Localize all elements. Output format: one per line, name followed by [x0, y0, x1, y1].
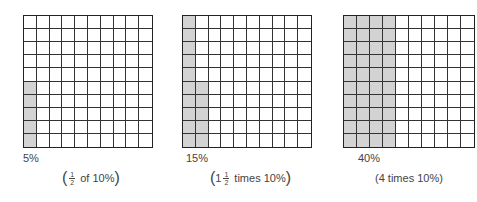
grid-cell: [260, 95, 273, 108]
grid-cell: [448, 134, 461, 147]
grid-cell: [383, 108, 396, 121]
grid-cell: [139, 108, 152, 121]
grid-cell: [260, 16, 273, 29]
grid-cell: [101, 55, 114, 68]
grid-cell: [435, 95, 448, 108]
grid-cell: [209, 42, 222, 55]
grid-cell: [344, 134, 357, 147]
grid-cell: [114, 55, 127, 68]
grid-cell: [183, 68, 196, 81]
grid-cell: [247, 16, 260, 29]
grid-cell: [422, 108, 435, 121]
grid-cell: [114, 68, 127, 81]
grid-cell: [435, 134, 448, 147]
grid-cell: [221, 55, 234, 68]
grid-cell: [448, 29, 461, 42]
grid-cell: [409, 68, 422, 81]
grid-cell: [383, 121, 396, 134]
grid-cell: [260, 134, 273, 147]
grid-cell: [114, 29, 127, 42]
grid-cell: [357, 42, 370, 55]
grid-cell: [37, 108, 50, 121]
grid-cell: [357, 134, 370, 147]
grid-cell: [448, 82, 461, 95]
grid-cell: [62, 42, 75, 55]
grid-cell: [383, 42, 396, 55]
grid-cell: [448, 108, 461, 121]
grid-cell: [88, 108, 101, 121]
grid-cell: [357, 95, 370, 108]
grid-cell: [344, 108, 357, 121]
grid-cell: [448, 121, 461, 134]
grid-cell: [273, 29, 286, 42]
grid-cell: [139, 42, 152, 55]
grid-cell: [461, 68, 474, 81]
grid-cell: [75, 121, 88, 134]
grid-cell: [50, 68, 63, 81]
grid-cell: [422, 82, 435, 95]
grid-cell: [247, 68, 260, 81]
grid-cell: [344, 82, 357, 95]
grid-cell: [75, 108, 88, 121]
grid-cell: [247, 121, 260, 134]
grid-cell: [298, 29, 311, 42]
grid-cell: [126, 29, 139, 42]
grid-cell: [409, 42, 422, 55]
grid-cell: [298, 121, 311, 134]
caption-text: 4 times 10%: [379, 172, 440, 184]
grid-cell: [221, 16, 234, 29]
grid-cell: [183, 95, 196, 108]
grid-cell: [126, 16, 139, 29]
grid-cell: [183, 134, 196, 147]
grid-cell: [298, 95, 311, 108]
grid-cell: [422, 42, 435, 55]
grid-cell: [409, 134, 422, 147]
grid-cell: [396, 16, 409, 29]
grid-cell: [234, 29, 247, 42]
grid-cell: [370, 29, 383, 42]
grid-cell: [273, 95, 286, 108]
grid-cell: [196, 55, 209, 68]
grid-cell: [24, 55, 37, 68]
open-paren: (: [62, 170, 67, 186]
grid-cell: [461, 42, 474, 55]
grid-cell: [75, 82, 88, 95]
grid-cell: [37, 42, 50, 55]
grid-cell: [126, 95, 139, 108]
grid-cell: [88, 82, 101, 95]
grid-cell: [370, 82, 383, 95]
grid-cell: [285, 68, 298, 81]
grid-cell: [196, 16, 209, 29]
grid-cell: [435, 42, 448, 55]
grid-cell: [396, 82, 409, 95]
grid-cell: [383, 82, 396, 95]
grid-cell: [101, 108, 114, 121]
grid-cell: [247, 108, 260, 121]
caption-half-of-10: ( 1 2 of 10% ): [62, 170, 120, 186]
grid-cell: [285, 29, 298, 42]
grid-cell: [50, 16, 63, 29]
grid-cell: [62, 95, 75, 108]
grid-cell: [196, 42, 209, 55]
fraction-one-half: 1 2: [223, 171, 229, 186]
grid-cell: [139, 121, 152, 134]
grid-cell: [273, 16, 286, 29]
grid-cell: [196, 108, 209, 121]
grid-cell: [221, 82, 234, 95]
grid-cell: [209, 95, 222, 108]
grid-cell: [285, 42, 298, 55]
grid-cell: [126, 55, 139, 68]
grid-cell: [344, 121, 357, 134]
grid-cell: [396, 29, 409, 42]
grid-cell: [234, 68, 247, 81]
grid-cell: [435, 68, 448, 81]
grid-cell: [285, 95, 298, 108]
caption-whole: 1: [215, 172, 221, 184]
grid-cell: [101, 134, 114, 147]
grid-cell: [357, 16, 370, 29]
grid-cell: [24, 134, 37, 147]
grid-cell: [50, 134, 63, 147]
grid-cell: [75, 95, 88, 108]
close-paren: ): [439, 172, 443, 184]
fraction-one-half: 1 2: [69, 171, 75, 186]
